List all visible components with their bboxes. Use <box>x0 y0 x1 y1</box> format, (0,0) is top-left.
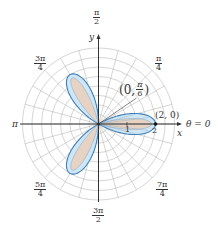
label-5pi-over-4: 5π 4 <box>34 181 46 198</box>
label-pi-over-4: π 4 <box>155 55 162 72</box>
tick-label-2: 2 <box>152 126 157 135</box>
point-label-2-0: (2, 0) <box>155 110 179 120</box>
y-axis-label: y <box>89 32 94 42</box>
grid-spoke <box>99 124 119 197</box>
tick-label-1: 1 <box>125 125 130 134</box>
origin-point <box>97 122 100 125</box>
x-axis-label: x <box>177 128 182 138</box>
theta-zero-label: θ = 0 <box>186 119 210 129</box>
grid-spoke <box>99 51 119 124</box>
point-label-0-pi-over-6: (0, π 6 ) <box>119 81 149 98</box>
label-7pi-over-4: 7π 4 <box>156 181 168 198</box>
y-axis-arrow-icon <box>97 34 101 39</box>
x-axis-arrow-icon <box>177 122 182 126</box>
label-3pi-over-4: 3π 4 <box>34 55 46 72</box>
label-3pi-over-2: 3π 2 <box>92 207 104 224</box>
label-pi: π <box>12 119 18 129</box>
label-pi-over-2: π 2 <box>93 9 100 26</box>
